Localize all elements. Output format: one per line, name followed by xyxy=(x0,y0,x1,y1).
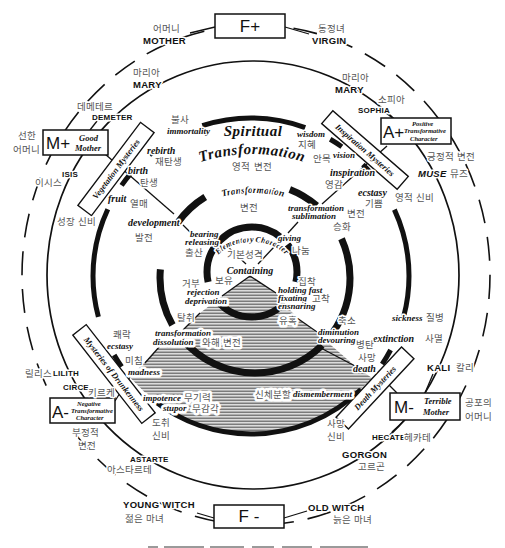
box-line: Terrible xyxy=(424,396,452,406)
good-mother-ko: 선한 xyxy=(18,130,36,141)
box-line: Negative xyxy=(76,400,101,407)
astarte-label: ASTARTE xyxy=(130,455,169,464)
containing-ko: 보유 xyxy=(215,275,233,286)
stupor-ko: 무감각 xyxy=(192,403,219,414)
mother-label: MOTHER xyxy=(143,35,186,46)
negative-ko: 부정적 xyxy=(72,427,99,438)
negative-ko: 변전 xyxy=(78,440,96,451)
fruit-label: fruit xyxy=(108,193,128,204)
sophia-ko: 소피아 xyxy=(378,94,405,105)
development-label: development xyxy=(128,217,181,228)
old-witch-ko: 늙은 마녀 xyxy=(333,514,372,525)
vision-label: vision xyxy=(333,150,355,160)
positive-ko: 긍정적 변전 xyxy=(427,151,475,162)
mary-right-label: MARY xyxy=(335,84,364,95)
inspiration-label: inspiration xyxy=(330,167,375,178)
ensnaring-ko: 유혹 xyxy=(279,315,297,326)
box-line: Character xyxy=(76,414,104,421)
connector-line xyxy=(183,225,190,232)
connector-line xyxy=(425,374,433,393)
vegetation-mysteries-ko: 성장 신비 xyxy=(57,216,96,227)
containing-label: Containing xyxy=(227,265,274,276)
dismemberment-ko: 신체분할 xyxy=(255,389,291,400)
mary-left-ko: 마리아 xyxy=(133,67,160,78)
ecstasy-negative-ko: 쾌락 xyxy=(113,329,131,340)
transformation-ring-title: Transformation xyxy=(221,185,286,199)
deprivation-ko: 탈취 xyxy=(177,312,195,323)
immortality-label: immortality xyxy=(167,126,211,136)
bearing-ko: 출산 xyxy=(185,247,203,258)
extinction-ko: 사멸 xyxy=(425,333,443,344)
diminution-label-2: devouring xyxy=(318,335,356,345)
kali-ko: 칼리 xyxy=(456,362,474,373)
extinction-label: extinction xyxy=(373,333,415,344)
old-witch-label: OLD WITCH xyxy=(308,502,365,513)
ecstasy-negative-label: ecstasy xyxy=(107,341,134,351)
muse-label: MUSE xyxy=(418,168,447,179)
elementary-character-ko: 기본성격 xyxy=(227,249,263,260)
cropped-caption xyxy=(140,543,375,548)
rebirth-ko: 재탄생 xyxy=(155,156,182,167)
vision-ko: 안목 xyxy=(313,153,331,164)
fruit-ko: 열매 xyxy=(130,198,148,209)
box-line: Positive xyxy=(412,120,433,127)
drunkenness-mysteries-ko: 도취 xyxy=(152,417,170,428)
box-m-minus-terrible-mother: M- Terrible Mother xyxy=(390,393,460,420)
sublimation-ko-2: 승화 xyxy=(333,221,351,232)
box-symbol: M- xyxy=(394,398,414,417)
box-symbol: A+ xyxy=(383,123,404,142)
connector-line xyxy=(284,511,307,518)
demeter-ko: 데메테르 xyxy=(77,101,113,112)
isis-ko: 이시스 xyxy=(35,177,62,188)
box-f-plus: F+ xyxy=(215,14,285,38)
immortality-ko: 불사 xyxy=(171,114,189,125)
terrible-mother-ko: 어머니 xyxy=(465,411,492,422)
circe-ko: 키르케 xyxy=(88,387,115,398)
box-symbol: F+ xyxy=(240,17,260,36)
diminution-ko-2: 병탄 xyxy=(356,339,374,350)
wisdom-ko: 지혜 xyxy=(298,139,316,150)
transformation-ring-text: Transformation xyxy=(221,185,286,199)
ensnaring-label: ensnaring xyxy=(278,301,316,311)
box-line: Mother xyxy=(422,407,450,417)
birth-label: birth xyxy=(128,165,148,176)
connector-line xyxy=(288,222,298,233)
wisdom-label: wisdom xyxy=(297,129,325,139)
box-a-plus-positive-transformative: A+ Positive Transformative Character xyxy=(381,118,451,144)
dissolution-label-2: dissolution xyxy=(153,337,194,347)
rebirth-label: rebirth xyxy=(147,145,176,156)
sickness-ko: 질병 xyxy=(426,312,444,323)
box-line: Character xyxy=(410,135,438,142)
good-mother-ko: 어머니 xyxy=(13,144,40,155)
madness-ko: 미침 xyxy=(125,355,143,366)
madness-label: madness xyxy=(128,367,161,377)
spiritual-label: Spiritual xyxy=(224,123,283,139)
astarte-ko: 아스타르테 xyxy=(107,464,152,475)
gorgon-ko: 고르곤 xyxy=(358,461,385,472)
ecstasy-positive-label: ecstasy xyxy=(358,187,387,198)
box-line: Mother xyxy=(74,143,102,153)
young-witch-ko: 젊은 마녀 xyxy=(125,513,164,524)
diminution-ko-1: 축소 xyxy=(338,315,356,326)
spiritual-ko: 영적 변전 xyxy=(232,161,271,172)
hecate-ko: 헤카테 xyxy=(404,432,431,443)
virgin-label: VIRGIN xyxy=(312,35,347,46)
circe-label: CIRCE xyxy=(63,383,89,392)
sublimation-ko-1: 변전 xyxy=(347,208,365,219)
connector-line xyxy=(90,121,97,130)
box-a-minus-negative-transformative: A- Negative Transformative Character xyxy=(50,398,115,423)
virgin-ko: 동정녀 xyxy=(318,23,345,34)
drunkenness-mysteries-ko: 신비 xyxy=(152,430,170,441)
box-m-plus-good-mother: M+ Good Mother xyxy=(43,130,108,155)
demeter-label: DEMETER xyxy=(92,113,133,122)
death-mysteries-ko: 신비 xyxy=(327,431,345,442)
mary-left-label: MARY xyxy=(133,79,162,90)
dismemberment-label: dismemberment xyxy=(293,389,352,399)
impotence-label: impotence xyxy=(143,393,181,403)
box-line: Transformative xyxy=(404,127,446,134)
terrible-mother-ko: 공포의 xyxy=(465,397,492,408)
muse-ko: 뮤즈 xyxy=(450,168,468,179)
sublimation-label-2: sublimation xyxy=(291,211,336,221)
young-witch-label: YOUNG WITCH xyxy=(123,499,195,510)
inspiration-ko: 영감 xyxy=(325,179,343,190)
